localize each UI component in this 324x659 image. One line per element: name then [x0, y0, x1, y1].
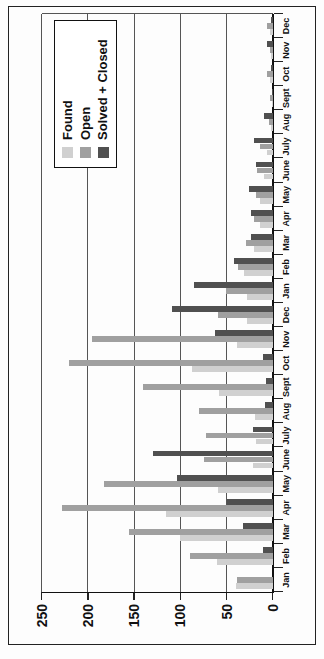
bar-solved-closed [194, 282, 273, 288]
bar-found [271, 125, 273, 131]
bar-found [217, 559, 272, 565]
bar-solved-closed [153, 451, 273, 457]
x-axis-label-dec-y2: Dec [281, 14, 291, 38]
bar-open [256, 192, 273, 198]
gridline-250 [41, 14, 42, 592]
legend-item-found: Found [61, 21, 75, 158]
bar-found [218, 487, 273, 493]
bar-solved-closed [177, 475, 273, 481]
bar-open [206, 433, 273, 439]
bar-open [62, 505, 273, 511]
y-axis-label-100: 100 [172, 604, 188, 644]
bar-open [104, 481, 273, 487]
bar-found [260, 198, 273, 204]
rotated-bar-chart-image: 050100150200250JanFebMarAprMayJuneJulyAu… [0, 0, 324, 659]
x-axis-label-feb-y1: Feb [281, 544, 291, 568]
x-axis-label-jan-y2: Jan [281, 279, 291, 303]
x-axis-label-jan-y1: Jan [281, 568, 291, 592]
bar-solved-closed [254, 138, 272, 144]
y-axis-label-50: 50 [219, 604, 235, 644]
plot-area: 050100150200250JanFebMarAprMayJuneJulyAu… [0, 0, 324, 659]
bar-open [199, 408, 273, 414]
bar-solved-closed [263, 547, 273, 553]
bar-open [246, 240, 273, 246]
chart-canvas: 050100150200250JanFebMarAprMayJuneJulyAu… [0, 0, 324, 659]
x-axis-label-sept-y2: Sept [281, 86, 291, 110]
bar-found [272, 101, 273, 107]
x-axis-label-apr-y2: Apr [281, 207, 291, 231]
bar-found [253, 463, 272, 469]
x-axis-label-sept-y1: Sept [281, 375, 291, 399]
y-axis-label-0: 0 [265, 604, 281, 644]
bar-found [264, 174, 272, 180]
plot-right-edge [42, 13, 273, 14]
bar-solved-closed [265, 402, 272, 408]
bar-solved-closed [251, 234, 273, 240]
y-axis-label-200: 200 [80, 604, 96, 644]
bar-open [270, 47, 273, 53]
bar-solved-closed [266, 378, 272, 384]
bar-open [267, 23, 273, 29]
legend-label-open: Open [79, 107, 93, 140]
bar-found [219, 390, 273, 396]
bar-open [204, 457, 272, 463]
bar-found [255, 414, 273, 420]
bar-open [129, 529, 272, 535]
bar-found [166, 511, 272, 517]
bar-solved-closed [256, 162, 273, 168]
x-axis-label-aug-y2: Aug [281, 110, 291, 134]
x-axis-label-aug-y1: Aug [281, 399, 291, 423]
bar-open [92, 336, 273, 342]
x-axis-label-nov-y1: Nov [281, 327, 291, 351]
bar-open [257, 168, 273, 174]
x-axis-label-may-y1: May [281, 472, 291, 496]
x-axis-label-june-y1: June [281, 448, 291, 472]
x-axis-label-july-y1: July [281, 423, 291, 447]
bar-found [267, 150, 273, 156]
x-axis-label-june-y2: June [281, 159, 291, 183]
x-axis-label-feb-y2: Feb [281, 255, 291, 279]
legend-swatch-solved-closed [98, 147, 109, 158]
bar-solved-closed [263, 354, 272, 360]
bar-solved-closed [264, 113, 272, 119]
x-axis-label-oct-y2: Oct [281, 62, 291, 86]
x-axis-label-may-y2: May [281, 183, 291, 207]
bar-open [226, 288, 273, 294]
bar-found [271, 53, 273, 59]
legend-item-solved-closed: Solved + Closed [96, 21, 110, 158]
bar-open [69, 360, 272, 366]
legend-label-found: Found [61, 100, 75, 140]
bar-found [244, 270, 273, 276]
bar-open [270, 95, 273, 101]
bar-found [254, 246, 272, 252]
x-axis-label-mar-y2: Mar [281, 231, 291, 255]
bar-solved-closed [271, 65, 273, 71]
legend: Found Open Solved + Closed [54, 20, 117, 168]
bar-solved-closed [227, 499, 273, 505]
bar-solved-closed [249, 186, 273, 192]
bar-open [267, 71, 273, 77]
y-axis-line [42, 592, 274, 594]
bar-found [270, 29, 273, 35]
bar-open [218, 312, 273, 318]
y-axis-label-250: 250 [34, 604, 50, 644]
bar-found [256, 439, 273, 445]
bar-open [254, 216, 272, 222]
bar-open [269, 119, 273, 125]
bar-solved-closed [234, 258, 273, 264]
bar-solved-closed [243, 523, 273, 529]
bar-solved-closed [172, 306, 273, 312]
bar-found [180, 535, 272, 541]
x-axis-label-oct-y1: Oct [281, 351, 291, 375]
bar-open [237, 577, 273, 583]
bar-solved-closed [272, 89, 273, 95]
x-axis-label-mar-y1: Mar [281, 520, 291, 544]
bar-found [237, 342, 273, 348]
x-axis-label-apr-y1: Apr [281, 496, 291, 520]
x-axis-label-dec-y1: Dec [281, 303, 291, 327]
bar-found [260, 222, 273, 228]
bar-found [192, 366, 272, 372]
bar-solved-closed [253, 427, 272, 433]
bar-open [260, 144, 273, 150]
legend-label-solved-closed: Solved + Closed [96, 39, 110, 140]
